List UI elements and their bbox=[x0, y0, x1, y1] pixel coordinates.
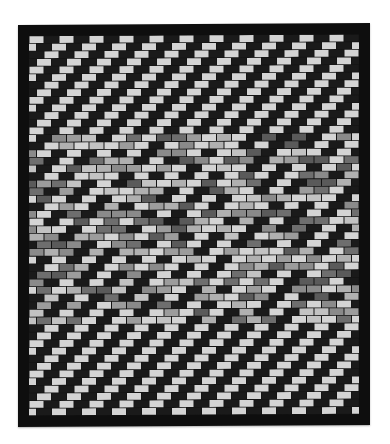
quilt bbox=[18, 23, 370, 427]
brick-pattern bbox=[29, 34, 359, 416]
quilt-patchwork bbox=[29, 34, 359, 416]
